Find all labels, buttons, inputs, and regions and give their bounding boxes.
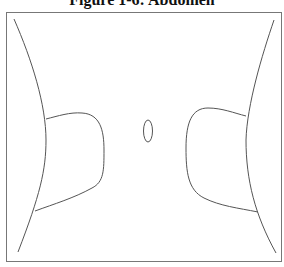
navel (144, 120, 153, 142)
right-flank-line (246, 20, 276, 253)
left-flank-line (14, 19, 46, 252)
abdomen-diagram (0, 0, 284, 267)
